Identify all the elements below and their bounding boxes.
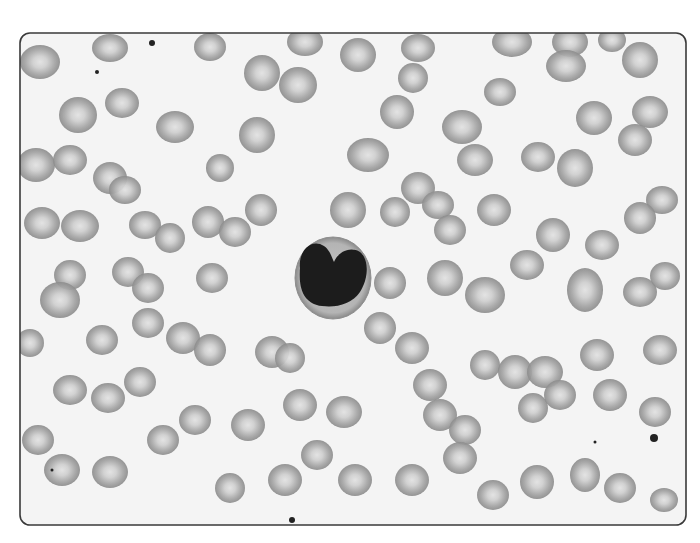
- red-blood-cell: [434, 215, 466, 245]
- red-blood-cell: [598, 28, 626, 52]
- red-blood-cell: [576, 101, 612, 135]
- red-blood-cell: [521, 142, 555, 172]
- red-blood-cell: [219, 217, 251, 247]
- red-blood-cell: [206, 154, 234, 182]
- red-blood-cell: [518, 393, 548, 423]
- red-blood-cell: [92, 456, 128, 488]
- red-blood-cell: [283, 389, 317, 421]
- red-blood-cell: [91, 383, 125, 413]
- red-blood-cell: [632, 96, 668, 128]
- debris-speck: [594, 441, 597, 444]
- red-blood-cell: [427, 260, 463, 296]
- red-blood-cell: [639, 397, 671, 427]
- red-blood-cell: [53, 145, 87, 175]
- red-blood-cell: [24, 207, 60, 239]
- red-blood-cell: [53, 375, 87, 405]
- red-blood-cell: [155, 223, 185, 253]
- red-blood-cell: [340, 38, 376, 72]
- red-blood-cell: [443, 442, 477, 474]
- red-blood-cell: [347, 138, 389, 172]
- red-blood-cell: [650, 262, 680, 290]
- red-blood-cell: [492, 27, 532, 57]
- red-blood-cell: [422, 191, 454, 219]
- red-blood-cell: [557, 149, 593, 187]
- red-blood-cell: [330, 192, 366, 228]
- red-blood-cell: [484, 78, 516, 106]
- red-blood-cell: [380, 197, 410, 227]
- debris-speck: [149, 40, 155, 46]
- red-blood-cell: [279, 67, 317, 103]
- red-blood-cell: [194, 334, 226, 366]
- red-blood-cell: [570, 458, 600, 492]
- red-blood-cell: [622, 42, 658, 78]
- red-blood-cell: [624, 202, 656, 234]
- red-blood-cell: [326, 396, 362, 428]
- red-blood-cell: [245, 194, 277, 226]
- blood-smear-micrograph: [0, 0, 700, 543]
- red-blood-cell: [132, 308, 164, 338]
- red-blood-cell: [231, 409, 265, 441]
- red-blood-cell: [477, 194, 511, 226]
- red-blood-cell: [477, 480, 509, 510]
- debris-speck: [289, 517, 295, 523]
- red-blood-cell: [401, 34, 435, 62]
- red-blood-cell: [413, 369, 447, 401]
- red-blood-cell: [465, 277, 505, 313]
- red-blood-cell: [86, 325, 118, 355]
- red-blood-cell: [544, 380, 576, 410]
- red-blood-cell: [124, 367, 156, 397]
- red-blood-cell: [580, 339, 614, 371]
- red-blood-cell: [109, 176, 141, 204]
- red-blood-cell: [643, 335, 677, 365]
- red-blood-cell: [92, 34, 128, 62]
- red-blood-cell: [398, 63, 428, 93]
- red-blood-cell: [194, 33, 226, 61]
- debris-speck: [650, 434, 658, 442]
- red-blood-cell: [585, 230, 619, 260]
- red-blood-cell: [395, 332, 429, 364]
- red-blood-cell: [59, 97, 97, 133]
- red-blood-cell: [650, 488, 678, 512]
- red-blood-cell: [442, 110, 482, 144]
- red-blood-cell: [244, 55, 280, 91]
- debris-speck: [95, 70, 99, 74]
- red-blood-cell: [546, 50, 586, 82]
- red-blood-cell: [374, 267, 406, 299]
- red-blood-cell: [105, 88, 139, 118]
- red-blood-cell: [520, 465, 554, 499]
- red-blood-cell: [301, 440, 333, 470]
- red-blood-cell: [44, 454, 80, 486]
- red-blood-cell: [380, 95, 414, 129]
- red-blood-cell: [395, 464, 429, 496]
- red-blood-cell: [61, 210, 99, 242]
- red-blood-cell: [567, 268, 603, 312]
- red-blood-cell: [604, 473, 636, 503]
- red-blood-cell: [593, 379, 627, 411]
- red-blood-cell: [40, 282, 80, 318]
- white-blood-cell: [295, 237, 371, 319]
- red-blood-cell: [156, 111, 194, 143]
- red-blood-cell: [618, 124, 652, 156]
- red-blood-cell: [449, 415, 481, 445]
- red-blood-cell: [536, 218, 570, 252]
- red-blood-cell: [275, 343, 305, 373]
- red-blood-cell: [196, 263, 228, 293]
- red-blood-cell: [338, 464, 372, 496]
- red-blood-cell: [22, 425, 54, 455]
- red-blood-cell: [215, 473, 245, 503]
- red-blood-cell: [147, 425, 179, 455]
- red-blood-cell: [239, 117, 275, 153]
- red-blood-cell: [364, 312, 396, 344]
- red-blood-cell: [510, 250, 544, 280]
- red-blood-cell: [17, 148, 55, 182]
- red-blood-cell: [498, 355, 532, 389]
- red-blood-cell: [457, 144, 493, 176]
- red-blood-cell: [268, 464, 302, 496]
- red-blood-cell: [20, 45, 60, 79]
- debris-speck: [51, 469, 54, 472]
- red-blood-cell: [179, 405, 211, 435]
- red-blood-cell: [132, 273, 164, 303]
- red-blood-cell: [470, 350, 500, 380]
